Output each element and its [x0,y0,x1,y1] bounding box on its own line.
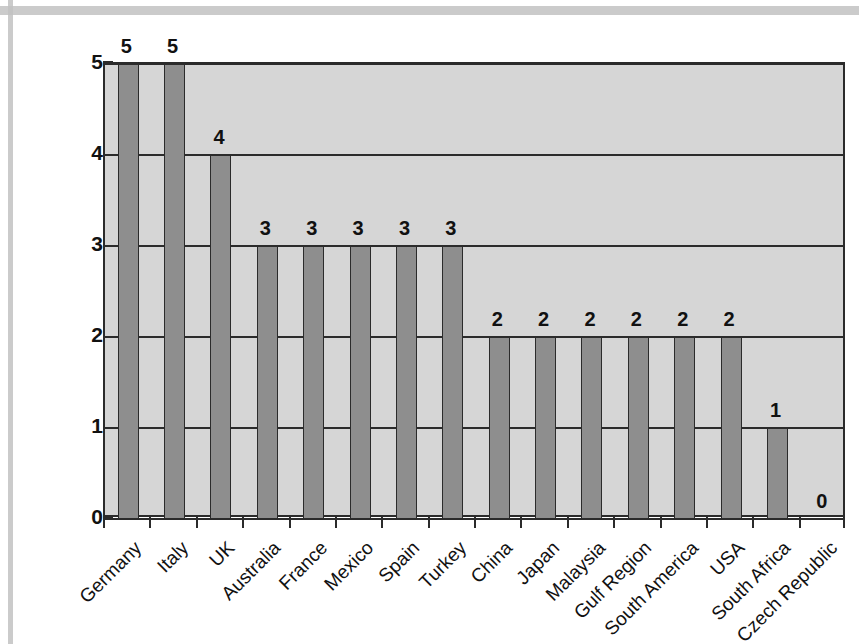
x-axis-category-labels: GermanyItalyUKAustraliaFranceMexicoSpain… [0,0,859,644]
x-axis-label: Germany [0,538,145,644]
bar-chart-figure: No. of global motorsport events 012345 5… [0,0,859,644]
